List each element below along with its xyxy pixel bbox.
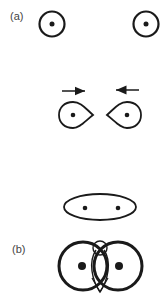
- teardrop-right: [107, 102, 141, 128]
- separated-circle-right: [134, 12, 159, 37]
- teardrop-left: [59, 102, 93, 128]
- overlapping-circles: [59, 241, 142, 292]
- diagram-canvas: [0, 0, 167, 302]
- merged-ellipse: [64, 194, 136, 220]
- separated-circle-left: [40, 12, 65, 37]
